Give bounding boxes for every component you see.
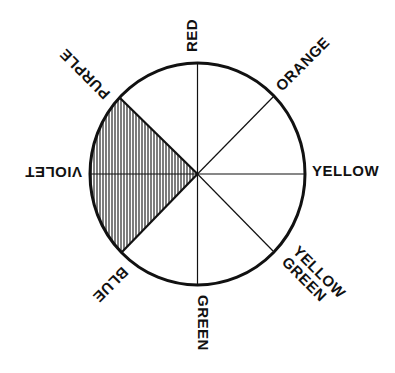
divider-orange	[198, 96, 275, 174]
label-purple: PURPLE	[56, 46, 113, 103]
label-red: RED	[183, 19, 200, 52]
color-wheel-diagram: RED ORANGE YELLOW YELLOW GREEN GREEN BLU…	[0, 0, 395, 373]
divider-yellow-green	[198, 174, 274, 251]
label-green: GREEN	[195, 295, 212, 351]
label-violet: VIOLET	[25, 164, 82, 181]
label-blue: BLUE	[90, 264, 132, 306]
label-orange: ORANGE	[272, 33, 333, 94]
label-yellow: YELLOW	[312, 162, 380, 179]
